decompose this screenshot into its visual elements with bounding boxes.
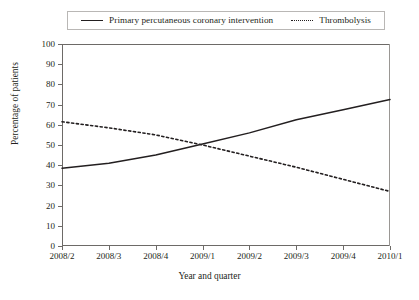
legend-item-primary-pci: Primary percutaneous coronary interventi… — [81, 16, 273, 25]
y-axis-tick-label: 10 — [46, 221, 55, 230]
x-axis-tick — [203, 246, 204, 250]
y-axis-title: Percentage of patients — [11, 62, 20, 145]
x-axis-tick-label: 2008/4 — [143, 252, 168, 261]
plot-area: 0102030405060708090100 2008/22008/32008/… — [62, 44, 390, 246]
x-axis-tick-label: 2009/1 — [190, 252, 215, 261]
x-axis-tick — [390, 246, 391, 250]
x-axis-tick — [296, 246, 297, 250]
legend-label-thrombolysis: Thrombolysis — [319, 16, 371, 25]
y-axis-tick-label: 60 — [46, 120, 55, 129]
legend-label-primary-pci: Primary percutaneous coronary interventi… — [109, 16, 273, 25]
x-axis-tick-label: 2010/1 — [377, 252, 402, 261]
chart-figure: Primary percutaneous coronary interventi… — [0, 0, 419, 300]
y-axis-tick-label: 30 — [46, 181, 55, 190]
x-axis-tick — [249, 246, 250, 250]
x-axis-tick-label: 2008/3 — [96, 252, 121, 261]
series-lines — [62, 44, 390, 246]
series-line-primary-pci — [62, 100, 390, 169]
y-axis-tick-label: 100 — [42, 40, 56, 49]
x-axis-tick — [62, 246, 63, 250]
x-axis-tick — [156, 246, 157, 250]
series-line-thrombolysis — [62, 122, 390, 192]
y-axis-tick-label: 90 — [46, 60, 55, 69]
y-axis-tick-label: 20 — [46, 201, 55, 210]
x-axis-tick — [109, 246, 110, 250]
y-axis-tick-label: 50 — [46, 141, 55, 150]
x-axis-tick-label: 2009/2 — [237, 252, 262, 261]
x-axis-tick-label: 2009/3 — [284, 252, 309, 261]
x-axis-tick — [343, 246, 344, 250]
chart-legend: Primary percutaneous coronary interventi… — [67, 11, 385, 30]
y-axis-tick-label: 0 — [51, 242, 56, 251]
y-axis-tick-label: 70 — [46, 100, 55, 109]
x-axis-tick-label: 2009/4 — [331, 252, 356, 261]
legend-item-thrombolysis: Thrombolysis — [291, 16, 371, 25]
y-axis-tick-label: 80 — [46, 80, 55, 89]
legend-swatch-solid-line-icon — [81, 20, 103, 21]
x-axis-tick-label: 2008/2 — [49, 252, 74, 261]
legend-swatch-dotted-line-icon — [291, 20, 313, 21]
y-axis-tick-label: 40 — [46, 161, 55, 170]
x-axis-title: Year and quarter — [0, 272, 419, 281]
